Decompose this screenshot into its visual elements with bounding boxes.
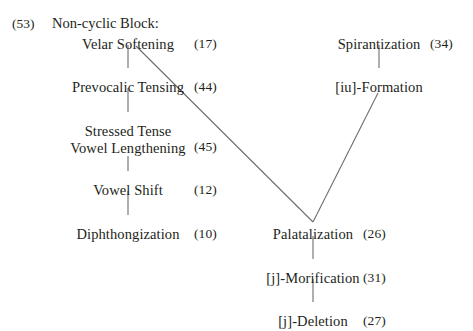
node-label: [j]-Deletion: [278, 313, 348, 329]
node-iu-formation[interactable]: [iu]-Formation: [335, 79, 423, 96]
figure-number: (53): [12, 16, 35, 33]
node-velar-softening[interactable]: Velar Softening: [82, 36, 174, 53]
node-palatalization[interactable]: Palatalization: [273, 226, 353, 243]
node-number-velar-softening: (17): [194, 36, 217, 53]
node-diphthongization[interactable]: Diphthongization: [76, 226, 179, 243]
node-number-diphthongization: (10): [194, 226, 217, 243]
node-number-vowel-shift: (12): [194, 182, 217, 199]
node-j-deletion[interactable]: [j]-Deletion: [278, 313, 348, 330]
node-number-j-deletion: (27): [363, 313, 386, 330]
node-number-palatalization: (26): [363, 226, 386, 243]
node-label: Velar Softening: [82, 36, 174, 52]
node-stressed-tense-vowel-lengthening[interactable]: Stressed Tense Vowel Lengthening: [70, 123, 185, 156]
figure-title: Non-cyclic Block:: [52, 15, 159, 32]
node-prevocalic-tensing[interactable]: Prevocalic Tensing: [72, 79, 184, 96]
node-label: [iu]-Formation: [335, 79, 423, 95]
node-number-spirantization: (34): [430, 36, 453, 53]
node-label: Diphthongization: [76, 226, 179, 242]
edge-iu-formation-to-palatalization: [313, 93, 378, 222]
node-j-morification[interactable]: [j]-Morification: [266, 270, 359, 287]
node-spirantization[interactable]: Spirantization: [338, 36, 421, 53]
node-number-stressed-tense-vowel-lengthening: (45): [194, 139, 217, 156]
node-number-j-morification: (31): [363, 270, 386, 287]
node-number-prevocalic-tensing: (44): [194, 79, 217, 96]
node-label: Spirantization: [338, 36, 421, 52]
node-label: Palatalization: [273, 226, 353, 242]
node-label: Vowel Shift: [93, 182, 163, 198]
rule-ordering-diagram: (53) Non-cyclic Block: Velar Softening (…: [0, 0, 473, 331]
node-label: [j]-Morification: [266, 270, 359, 286]
node-label-line-2: Vowel Lengthening: [70, 140, 185, 157]
node-label: Prevocalic Tensing: [72, 79, 184, 95]
node-label-line-1: Stressed Tense: [70, 123, 185, 140]
node-vowel-shift[interactable]: Vowel Shift: [93, 182, 163, 199]
